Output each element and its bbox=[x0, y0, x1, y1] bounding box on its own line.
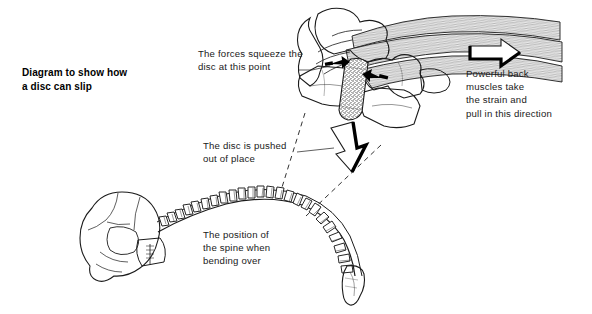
disc-slip-diagram: Diagram to show how a disc can slip The … bbox=[0, 0, 592, 314]
leader-line-disc-pushed bbox=[297, 148, 334, 152]
annotation-forces-squeeze: The forces squeeze the disc at this poin… bbox=[198, 47, 303, 73]
annotation-disc-pushed: The disc is pushed out of place bbox=[203, 139, 287, 165]
annotation-spine-position: The position of the spine when bending o… bbox=[203, 228, 270, 268]
annotation-back-muscles: Powerful back muscles take the strain an… bbox=[466, 67, 552, 120]
page-title: Diagram to show how a disc can slip bbox=[22, 66, 127, 94]
skull bbox=[80, 192, 165, 281]
